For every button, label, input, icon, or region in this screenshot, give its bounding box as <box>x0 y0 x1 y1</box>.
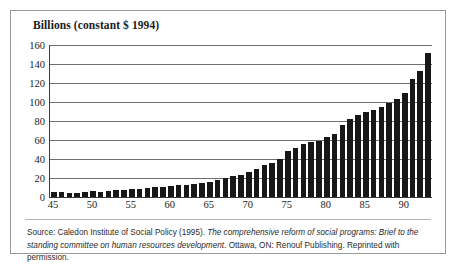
y-axis-tick-label: 120 <box>29 78 45 89</box>
bar <box>51 192 57 197</box>
y-axis-tick-label: 40 <box>35 154 46 165</box>
bar <box>191 184 197 197</box>
x-axis-tick-label: 50 <box>87 199 98 210</box>
bar <box>137 189 143 197</box>
bar <box>98 192 104 197</box>
source-prefix: Source: Caledon Institute of Social Poli… <box>27 228 207 237</box>
bar <box>121 190 127 197</box>
x-axis-tick-labels: 45505560657075808590 <box>49 199 431 213</box>
bar <box>347 119 353 197</box>
y-axis-tick-label: 60 <box>35 135 46 146</box>
bar <box>199 183 205 197</box>
figure-frame: Billions (constant $ 1994) 0204060801001… <box>10 10 446 254</box>
bar <box>106 191 112 197</box>
bar <box>269 163 275 197</box>
bar <box>293 148 299 197</box>
x-axis-tick-label: 55 <box>126 199 137 210</box>
bar <box>145 188 151 197</box>
source-divider <box>25 219 431 220</box>
bar-series <box>50 45 432 197</box>
x-axis-tick-label: 70 <box>243 199 254 210</box>
bar <box>277 159 283 197</box>
bar <box>215 180 221 197</box>
y-axis-tick-label: 0 <box>40 192 45 203</box>
bar <box>152 187 158 197</box>
x-axis-tick-label: 60 <box>165 199 176 210</box>
bar <box>301 144 307 197</box>
y-axis-tick-label: 140 <box>29 59 45 70</box>
bar <box>332 134 338 197</box>
bar <box>113 190 119 197</box>
bar <box>230 176 236 197</box>
bar <box>316 141 322 197</box>
bar <box>160 187 166 197</box>
bar <box>207 182 213 197</box>
x-axis-tick-label: 65 <box>204 199 215 210</box>
bar <box>355 115 361 197</box>
y-axis-tick-labels: 020406080100120140160 <box>11 45 45 197</box>
bar <box>394 99 400 197</box>
bar <box>223 178 229 197</box>
y-axis-tick-label: 100 <box>29 97 45 108</box>
bar <box>363 112 369 198</box>
x-axis-tick-label: 80 <box>321 199 332 210</box>
bar <box>285 151 291 197</box>
bar <box>176 185 182 197</box>
source-note: Source: Caledon Institute of Social Poli… <box>27 227 431 265</box>
bar <box>417 71 423 197</box>
plot-frame <box>49 45 432 198</box>
bar <box>82 192 88 197</box>
bar <box>308 142 314 197</box>
bar <box>324 137 330 197</box>
x-axis-tick-label: 90 <box>398 199 409 210</box>
bar <box>90 191 96 197</box>
bar <box>402 93 408 198</box>
bar <box>379 107 385 197</box>
y-axis-tick-label: 20 <box>35 173 46 184</box>
bar <box>67 193 73 197</box>
bar <box>168 186 174 197</box>
bar <box>371 110 377 197</box>
bar <box>340 125 346 197</box>
bar <box>410 79 416 197</box>
bar <box>386 103 392 197</box>
bar <box>254 169 260 198</box>
x-axis-tick-label: 45 <box>48 199 59 210</box>
bar <box>74 193 80 197</box>
bar <box>246 172 252 197</box>
x-axis-tick-label: 85 <box>359 199 370 210</box>
bar <box>425 53 431 197</box>
bar <box>129 189 135 197</box>
bar <box>238 175 244 197</box>
y-axis-tick-label: 160 <box>29 40 45 51</box>
y-axis-tick-label: 80 <box>35 116 46 127</box>
bar <box>262 165 268 197</box>
x-axis-tick-label: 75 <box>282 199 293 210</box>
bar <box>184 185 190 197</box>
bar <box>59 192 65 197</box>
